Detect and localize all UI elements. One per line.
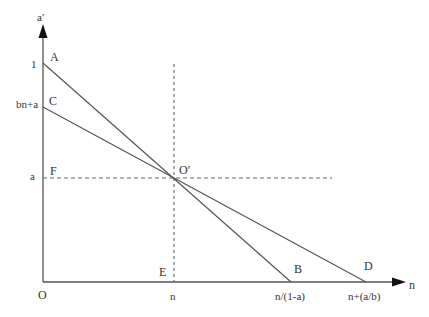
- point-O-prime: O′: [179, 163, 191, 177]
- x-tick-n-over-1-minus-a: n/(1-a): [275, 290, 305, 303]
- x-axis-arrow-icon: [392, 278, 406, 287]
- y-tick-1: 1: [31, 58, 37, 70]
- origin-label: O: [38, 288, 47, 302]
- y-tick-bn-plus-a: bn+a: [16, 98, 38, 110]
- point-E: E: [159, 265, 166, 279]
- point-D: D: [364, 259, 373, 273]
- x-tick-n: n: [170, 290, 176, 302]
- point-A: A: [50, 50, 59, 64]
- diagram-canvas: a′ n O 1 bn+a a n n/(1-a) n+(a/b) A C F …: [0, 0, 429, 317]
- y-axis-arrow-icon: [39, 24, 48, 38]
- x-axis-label: n: [409, 278, 415, 292]
- line-CD: [43, 107, 366, 282]
- demand-lines: [43, 63, 366, 282]
- line-AB: [43, 63, 291, 282]
- y-tick-a: a: [30, 170, 35, 182]
- point-C: C: [49, 94, 57, 108]
- y-axis-label: a′: [37, 11, 44, 23]
- point-B: B: [294, 262, 302, 276]
- x-tick-n-plus-a-over-b: n+(a/b): [348, 290, 381, 303]
- point-F: F: [50, 164, 57, 178]
- axes: [39, 24, 407, 287]
